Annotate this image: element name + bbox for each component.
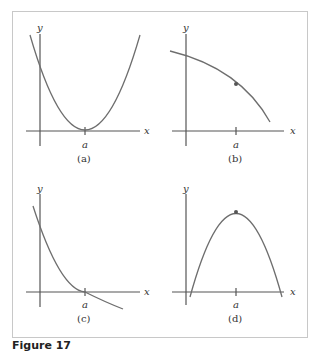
tick-label: a <box>82 139 88 150</box>
panel-c: y x a (c) <box>26 183 150 324</box>
marked-point <box>234 210 238 214</box>
marked-point <box>234 82 238 86</box>
panel-label: (d) <box>228 313 242 324</box>
y-label: y <box>36 22 43 33</box>
panel-b: y x a (b) <box>170 22 296 164</box>
panel-label: (a) <box>77 153 91 164</box>
x-label: x <box>290 125 296 136</box>
curve-d <box>190 214 282 298</box>
curve-b <box>170 51 270 122</box>
y-label: y <box>182 183 189 194</box>
panel-label: (c) <box>77 313 91 324</box>
panel-a: y x a (a) <box>26 22 150 164</box>
panel-d: y x a (d) <box>172 183 296 324</box>
y-label: y <box>36 183 43 194</box>
x-label: x <box>144 286 150 297</box>
panel-label: (b) <box>228 153 242 164</box>
tick-label: a <box>233 299 239 310</box>
tick-label: a <box>82 299 88 310</box>
x-label: x <box>290 286 296 297</box>
figure-caption: Figure 17 <box>12 339 71 352</box>
curve-c <box>33 206 123 309</box>
y-label: y <box>182 22 189 33</box>
x-label: x <box>144 125 150 136</box>
tick-label: a <box>233 139 239 150</box>
curve-a <box>30 35 140 130</box>
